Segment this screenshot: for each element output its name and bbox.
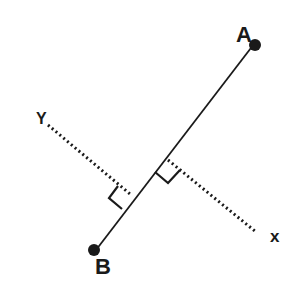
dotted-line-x bbox=[168, 160, 256, 232]
label-x-axis: x bbox=[270, 228, 279, 245]
dotted-line-y bbox=[48, 125, 130, 194]
right-angle-marker-x bbox=[155, 170, 180, 183]
right-angle-marker-y bbox=[109, 186, 122, 209]
label-y-axis: Y bbox=[36, 111, 47, 127]
diagram-canvas bbox=[0, 0, 308, 300]
segment-ab bbox=[96, 44, 254, 250]
label-a: A bbox=[236, 24, 252, 46]
label-b: B bbox=[95, 256, 111, 278]
